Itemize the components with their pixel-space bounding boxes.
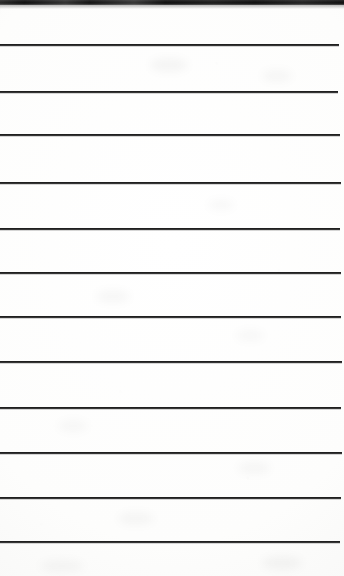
ruled-line (0, 44, 339, 46)
ruled-line (0, 272, 341, 274)
scanned-notepad-page (0, 0, 344, 576)
ruled-line (0, 361, 342, 363)
paper-background (0, 0, 344, 576)
binding-strip-mottle (0, 0, 344, 5)
ruled-line (0, 452, 342, 454)
ruled-line (0, 182, 341, 184)
ruled-line (0, 407, 341, 409)
ruled-line (0, 134, 340, 136)
ruled-line (0, 91, 338, 93)
top-binding-strip (0, 0, 344, 5)
ruled-line (0, 541, 340, 543)
ruled-line (0, 497, 341, 499)
ruled-line (0, 228, 340, 230)
ruled-line (0, 316, 341, 318)
